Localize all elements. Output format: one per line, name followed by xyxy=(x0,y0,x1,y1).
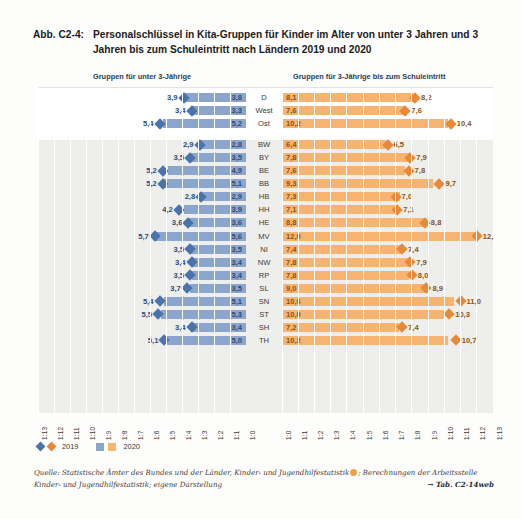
value-label-2019-over3: 8,8 xyxy=(431,216,442,229)
value-label-2020-under3: 3,4 xyxy=(231,256,242,269)
value-label-2020-under3: 3,4 xyxy=(231,269,242,282)
gridline xyxy=(395,88,396,413)
value-label-2020-under3: 5,1 xyxy=(231,295,242,308)
value-label-2019-under3: 5,2 xyxy=(137,164,157,177)
value-label-2019-over3: 7,8 xyxy=(415,164,426,177)
axis-tick-label: 1:7 xyxy=(137,431,144,440)
value-label-2020-over3: 6,4 xyxy=(286,138,297,151)
value-label-2020-over3: 7,8 xyxy=(286,269,297,282)
value-label-2019-under3: 3,4 xyxy=(166,321,186,334)
value-label-2020-over3: 7,6 xyxy=(286,164,297,177)
value-label-2020-over3: 7,2 xyxy=(286,321,297,334)
gridline xyxy=(411,88,412,413)
state-label-row: Ost xyxy=(246,117,282,130)
figure-title-block: Abb. C2-4: Personalschlüssel in Kita-Gru… xyxy=(33,28,493,57)
axis-tick-label: 1:12 xyxy=(479,427,486,440)
value-label-2019-over3: 7,4 xyxy=(408,321,419,334)
value-label-2020-under3: 4,9 xyxy=(231,164,242,177)
x-axis-over3: 1:01:11:21:31:41:51:61:71:81:91:101:111:… xyxy=(282,414,493,444)
state-label: HB xyxy=(246,190,282,203)
state-label-row: BW xyxy=(246,138,282,151)
state-label-row: SL xyxy=(246,282,282,295)
axis-tick-label: 1:8 xyxy=(414,431,421,440)
value-label-2020-under3: 3,5 xyxy=(231,151,242,164)
state-label-row: HH xyxy=(246,203,282,216)
gridline xyxy=(182,88,183,413)
state-label: SL xyxy=(246,282,282,295)
state-label: BE xyxy=(246,164,282,177)
gridline xyxy=(38,88,39,413)
legend-diamond-blue-icon xyxy=(36,442,46,452)
axis-tick-label: 1:1 xyxy=(301,431,308,440)
bar-2020-over3 xyxy=(282,271,409,280)
value-label-2020-over3: 7,3 xyxy=(286,190,297,203)
source-line-1: Quelle: Statistische Ämter des Bundes un… xyxy=(34,467,494,479)
legend-label-2019: 2019 xyxy=(62,442,78,451)
gridline xyxy=(214,88,215,413)
axis-tick-label: 1:9 xyxy=(105,431,112,440)
chart-panel-over3: 8,18,27,67,610,210,46,46,57,87,97,67,89,… xyxy=(282,88,493,413)
chart-plot-area: 3,93,83,43,35,45,22,92,83,53,55,24,95,25… xyxy=(38,88,493,413)
figure-number: Abb. C2-4: xyxy=(33,28,84,43)
bar-2020-over3 xyxy=(282,179,433,188)
value-label-2020-under3: 3,4 xyxy=(231,321,242,334)
axis-tick-label: 1:5 xyxy=(169,431,176,440)
gridline xyxy=(444,88,445,413)
value-label-2019-under3: 5,4 xyxy=(134,117,154,130)
bar-2020-over3 xyxy=(282,153,409,162)
gridline xyxy=(230,88,231,413)
value-label-2019-over3: 9,7 xyxy=(445,177,456,190)
axis-tick-label: 1:7 xyxy=(398,431,405,440)
bar-2020-over3 xyxy=(282,336,448,345)
source-text-post: ; Berechnungen der Arbeitsstelle xyxy=(358,468,477,477)
figure-page: Abb. C2-4: Personalschlüssel in Kita-Gru… xyxy=(0,0,521,519)
state-label: HE xyxy=(246,216,282,229)
value-label-2019-over3: 8,2 xyxy=(421,91,432,104)
axis-tick-label: 1:10 xyxy=(89,427,96,440)
axis-tick-label: 1:0 xyxy=(249,431,256,440)
table-reference-link[interactable]: → Tab. C2-14web xyxy=(428,479,495,491)
state-label: ST xyxy=(246,308,282,321)
state-label: SH xyxy=(246,321,282,334)
axis-tick-label: 1:5 xyxy=(366,431,373,440)
value-label-2020-under3: 3,9 xyxy=(231,203,242,216)
value-label-2019-under3: 2,8 xyxy=(175,190,195,203)
page-title: Personalschlüssel in Kita-Gruppen für Ki… xyxy=(93,28,493,57)
state-label: Ost xyxy=(246,117,282,130)
value-label-2020-over3: 9,3 xyxy=(286,177,297,190)
state-label: MV xyxy=(246,230,282,243)
value-label-2020-under3: 5,6 xyxy=(231,230,242,243)
gridline xyxy=(330,88,331,413)
state-label-row: SN xyxy=(246,295,282,308)
gridline xyxy=(102,88,103,413)
value-label-2020-under3: 5,2 xyxy=(231,117,242,130)
value-label-2020-over3: 7,8 xyxy=(286,151,297,164)
value-label-2019-over3: 11,0 xyxy=(467,295,481,308)
value-label-2019-over3: 12,0 xyxy=(483,230,493,243)
value-label-2019-under3: 5,1 xyxy=(138,334,158,347)
bar-2020-over3 xyxy=(282,205,397,214)
gridline xyxy=(460,88,461,413)
state-label-row: MV xyxy=(246,230,282,243)
value-label-2019-over3: 7,4 xyxy=(408,243,419,256)
axis-tick-label: 1:11 xyxy=(463,427,470,440)
axis-tick-label: 1:9 xyxy=(431,431,438,440)
state-label: D xyxy=(246,91,282,104)
legend-square-blue-icon xyxy=(96,443,104,451)
gridline xyxy=(134,88,135,413)
value-label-2019-under3: 2,9 xyxy=(174,138,194,151)
state-label: BB xyxy=(246,177,282,190)
state-label-row: RP xyxy=(246,269,282,282)
value-label-2019-under3: 3,9 xyxy=(158,91,178,104)
value-label-2019-under3: 5,7 xyxy=(129,230,149,243)
value-label-2019-over3: 8,9 xyxy=(432,282,443,295)
gridline xyxy=(298,88,299,413)
legend-square-orange-icon xyxy=(108,443,116,451)
state-label-row: BY xyxy=(246,151,282,164)
value-label-2020-over3: 7,1 xyxy=(286,203,297,216)
axis-tick-label: 1:4 xyxy=(185,431,192,440)
footnote-dot-icon xyxy=(350,469,357,476)
chart-panel-statelabels: DWestOstBWBYBEBBHBHHHEMVNINWRPSLSNSTSHTH xyxy=(246,88,282,413)
axis-tick-label: 1:3 xyxy=(333,431,340,440)
bar-2020-over3 xyxy=(282,119,448,128)
